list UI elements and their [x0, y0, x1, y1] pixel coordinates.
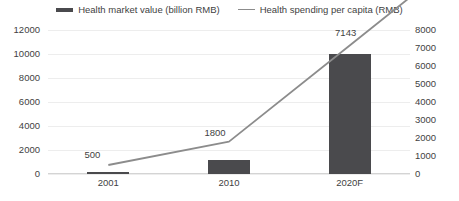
line-series: 50018007143: [48, 30, 410, 174]
legend-item-market-value: Health market value (billion RMB): [56, 4, 220, 15]
category-label-2020F: 2020F: [336, 178, 363, 188]
left-axis-tick-label: 2000: [0, 145, 40, 155]
plot-area: 50018007143: [48, 30, 410, 174]
chart-container: Health market value (billion RMB) Health…: [0, 0, 459, 201]
category-label-2001: 2001: [98, 178, 119, 188]
right-axis-tick-label: 7000: [415, 43, 455, 53]
right-axis-tick-label: 6000: [415, 61, 455, 71]
left-axis-tick-label: 4000: [0, 121, 40, 131]
line-path-svg: [48, 30, 410, 174]
line-swatch-icon: [238, 9, 255, 10]
right-axis-tick-label: 4000: [415, 97, 455, 107]
legend-label-market-value: Health market value (billion RMB): [78, 4, 220, 15]
line-path: [108, 0, 410, 165]
right-axis-tick-label: 8000: [415, 25, 455, 35]
line-point-label-2020F: 7143: [335, 28, 356, 38]
left-axis-tick-label: 12000: [0, 25, 40, 35]
category-label-2010: 2010: [218, 178, 239, 188]
right-axis-tick-label: 5000: [415, 79, 455, 89]
left-axis-tick-label: 10000: [0, 49, 40, 59]
right-axis-tick-label: 2000: [415, 133, 455, 143]
line-point-label-2001: 500: [84, 150, 100, 160]
gridline: [48, 174, 410, 175]
right-axis-tick-label: 3000: [415, 115, 455, 125]
left-axis-tick-label: 8000: [0, 73, 40, 83]
right-axis-tick-label: 1000: [415, 151, 455, 161]
left-axis-tick-label: 0: [0, 169, 40, 179]
legend-label-spending-per-capita: Health spending per capita (RMB): [260, 4, 403, 15]
bar-swatch-icon: [56, 8, 73, 12]
line-point-label-2010: 1800: [204, 128, 225, 138]
right-axis-tick-label: 0: [415, 169, 455, 179]
left-axis-tick-label: 6000: [0, 97, 40, 107]
legend-item-spending-per-capita: Health spending per capita (RMB): [238, 4, 403, 15]
category-axis-labels: 200120102020F: [48, 178, 410, 192]
